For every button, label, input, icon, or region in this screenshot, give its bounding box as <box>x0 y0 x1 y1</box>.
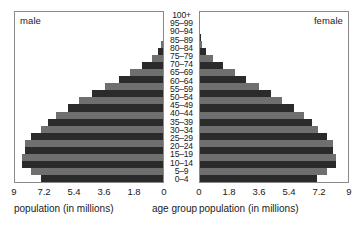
female-bar <box>200 133 327 140</box>
female-axis-tick: 1.8 <box>222 186 235 197</box>
bar-row <box>15 104 163 111</box>
bar-row <box>15 48 163 55</box>
male-axis-tick: 3.6 <box>97 186 110 197</box>
male-bar <box>79 97 163 104</box>
bar-row <box>15 140 163 147</box>
female-bar <box>200 147 333 154</box>
bar-row <box>200 97 348 104</box>
age-group-label-list: 100+95–9990–9485–8980–8475–7970–7465–696… <box>164 11 199 183</box>
female-bar <box>200 90 271 97</box>
bar-row <box>200 154 348 161</box>
male-bar <box>31 168 163 175</box>
male-bar <box>130 69 163 76</box>
bar-row <box>200 126 348 133</box>
male-bar <box>158 48 163 55</box>
bar-row <box>200 69 348 76</box>
female-bar <box>200 69 235 76</box>
female-bar <box>200 41 202 48</box>
bar-row <box>15 175 163 182</box>
female-panel: female <box>199 11 349 183</box>
age-group-axis: 100+95–9990–9485–8980–8475–7970–7465–696… <box>164 11 199 183</box>
male-bar <box>56 112 163 119</box>
female-axis-tick: 5.4 <box>282 186 295 197</box>
bar-row <box>15 83 163 90</box>
female-axis-tick: 7.2 <box>312 186 325 197</box>
female-bar <box>200 175 317 182</box>
bar-row <box>200 90 348 97</box>
female-bar <box>200 140 333 147</box>
male-bar <box>105 83 163 90</box>
female-bars <box>200 34 348 182</box>
male-axis-title: population (in millions) <box>14 203 114 214</box>
female-bar <box>200 126 318 133</box>
bar-row <box>200 175 348 182</box>
male-bar <box>92 90 163 97</box>
female-bar <box>200 154 336 161</box>
female-bar <box>200 76 246 83</box>
bar-row <box>200 83 348 90</box>
male-bar <box>119 76 163 83</box>
bar-row <box>15 34 163 41</box>
age-axis-title: age group <box>152 203 197 214</box>
female-bar <box>200 104 294 111</box>
bar-row <box>200 133 348 140</box>
bar-row <box>15 147 163 154</box>
male-axis-tick: 7.2 <box>37 186 50 197</box>
male-bar <box>152 55 164 62</box>
male-bar <box>142 62 163 69</box>
male-axis-ticks: 97.25.43.61.80 <box>14 186 164 199</box>
female-bar <box>200 168 327 175</box>
male-bars <box>15 34 163 182</box>
bar-row <box>200 62 348 69</box>
male-bar <box>41 175 163 182</box>
bar-row <box>200 147 348 154</box>
bar-row <box>200 55 348 62</box>
male-bar <box>22 154 163 161</box>
bar-row <box>200 76 348 83</box>
male-bar <box>48 119 163 126</box>
female-bar <box>200 97 282 104</box>
male-bar <box>25 147 163 154</box>
bar-row <box>15 119 163 126</box>
bar-row <box>200 161 348 168</box>
male-bar <box>31 133 163 140</box>
bar-row <box>15 126 163 133</box>
bar-row <box>200 41 348 48</box>
bar-row <box>15 55 163 62</box>
female-axis-tick: 9 <box>346 186 351 197</box>
bar-row <box>200 48 348 55</box>
female-axis-tick: 3.6 <box>252 186 265 197</box>
female-bar <box>200 161 336 168</box>
bar-row <box>15 168 163 175</box>
bar-row <box>15 41 163 48</box>
female-bar <box>200 119 312 126</box>
bar-row <box>15 112 163 119</box>
male-panel: male <box>14 11 164 183</box>
age-group-label: 0–4 <box>164 175 199 183</box>
male-axis-tick: 0 <box>161 186 166 197</box>
bar-row <box>15 69 163 76</box>
bar-row <box>200 168 348 175</box>
bar-row <box>15 97 163 104</box>
bar-row <box>15 90 163 97</box>
male-panel-label: male <box>20 15 41 26</box>
male-axis-tick: 9 <box>11 186 16 197</box>
bar-row <box>200 104 348 111</box>
male-axis-tick: 5.4 <box>67 186 80 197</box>
female-axis-ticks: 01.83.65.47.29 <box>199 186 349 199</box>
female-bar <box>200 62 223 69</box>
population-pyramid-figure: male 100+95–9990–9485–8980–8475–7970–746… <box>0 0 363 234</box>
male-bar <box>68 104 163 111</box>
male-axis-tick: 1.8 <box>127 186 140 197</box>
female-bar <box>200 112 304 119</box>
bar-row <box>15 76 163 83</box>
female-panel-label: female <box>314 15 343 26</box>
female-bar <box>200 55 213 62</box>
female-bar <box>200 48 206 55</box>
bar-row <box>15 133 163 140</box>
female-bar <box>200 83 259 90</box>
bar-row <box>200 119 348 126</box>
male-bar <box>161 41 163 48</box>
bar-row <box>200 112 348 119</box>
bar-row <box>15 161 163 168</box>
